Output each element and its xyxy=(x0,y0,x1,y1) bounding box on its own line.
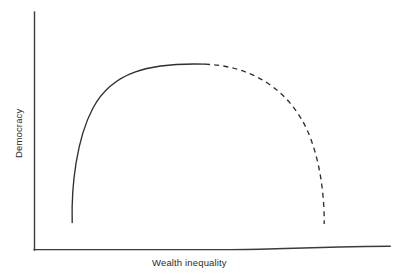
x-axis-label: Wealth inequality xyxy=(152,258,227,268)
chart-canvas xyxy=(0,0,396,278)
chart-background xyxy=(0,0,396,278)
chart-figure: Democracy Wealth inequality xyxy=(0,0,396,278)
y-axis-label: Democracy xyxy=(14,109,24,158)
